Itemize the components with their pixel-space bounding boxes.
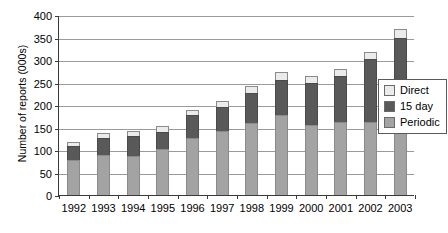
bar-segment-periodic (127, 156, 140, 195)
bar-segment-periodic (186, 138, 199, 195)
x-tick-label: 1997 (210, 202, 234, 214)
legend-label: 15 day (400, 101, 433, 112)
bar-segment-direct (305, 76, 318, 83)
bar-segment-15-day (156, 132, 169, 150)
bar-stack (305, 76, 318, 195)
bar-segment-15-day (127, 136, 140, 156)
x-tick-mark (385, 195, 386, 199)
bar-segment-15-day (97, 138, 110, 154)
bar-segment-15-day (216, 107, 229, 131)
x-tick-mark (237, 195, 238, 199)
x-tick-label: 1995 (151, 202, 175, 214)
bar-segment-periodic (334, 122, 347, 195)
bar-stack (186, 110, 199, 195)
x-tick-label: 2000 (299, 202, 323, 214)
y-tick-label: 50 (18, 168, 52, 180)
bar-segment-15-day (186, 115, 199, 138)
bar-segment-periodic (305, 125, 318, 195)
x-tick-label: 1993 (91, 202, 115, 214)
x-tick-mark (267, 195, 268, 199)
y-tick-label: 300 (18, 55, 52, 67)
x-tick-mark (356, 195, 357, 199)
x-tick-mark (89, 195, 90, 199)
x-tick-mark (59, 195, 60, 199)
bar-segment-15-day (364, 59, 377, 122)
legend-swatch-icon (384, 117, 395, 128)
x-tick-mark (296, 195, 297, 199)
bar-stack (67, 142, 80, 195)
bar-segment-direct (245, 86, 258, 93)
plot-area: 400350300250200150100500 199219931994199… (58, 16, 414, 196)
y-tick-label: 100 (18, 145, 52, 157)
x-tick-mark (207, 195, 208, 199)
x-tick-label: 2002 (358, 202, 382, 214)
bar-stack (156, 126, 169, 195)
bar-segment-periodic (156, 149, 169, 195)
x-tick-mark (178, 195, 179, 199)
legend-item[interactable]: Direct (384, 85, 440, 96)
bar-stack (364, 52, 377, 195)
bar-stack (334, 69, 347, 195)
bar-segment-15-day (334, 76, 347, 122)
legend-item[interactable]: Periodic (384, 117, 440, 128)
x-tick-mark (118, 195, 119, 199)
bar-stack (275, 72, 288, 195)
y-tick-label: 400 (18, 10, 52, 22)
y-tick-label: 200 (18, 100, 52, 112)
x-tick-label: 1996 (180, 202, 204, 214)
bar-segment-direct (394, 29, 407, 38)
x-tick-label: 1998 (240, 202, 264, 214)
bar-stack (245, 86, 258, 195)
x-tick-mark (326, 195, 327, 199)
x-tick-mark (148, 195, 149, 199)
y-tick-label: 250 (18, 78, 52, 90)
legend-swatch-icon (384, 85, 395, 96)
bar-segment-periodic (245, 123, 258, 195)
x-tick-mark (415, 195, 416, 199)
bar-segment-direct (364, 52, 377, 59)
bar-segment-periodic (97, 155, 110, 196)
stacked-bar-chart: Number of reports (000s) 400350300250200… (0, 0, 448, 233)
x-tick-label: 2003 (388, 202, 412, 214)
bar-segment-periodic (364, 122, 377, 195)
bar-segment-15-day (245, 93, 258, 123)
x-tick-label: 1999 (269, 202, 293, 214)
y-tick-label: 0 (18, 190, 52, 202)
y-tick-label: 350 (18, 33, 52, 45)
legend-label: Periodic (400, 117, 440, 128)
legend-item[interactable]: 15 day (384, 101, 440, 112)
bar-segment-periodic (67, 160, 80, 195)
bar-stack (216, 101, 229, 195)
x-tick-label: 2001 (329, 202, 353, 214)
bar-segment-direct (275, 72, 288, 80)
bar-stack (97, 133, 110, 195)
bar-segment-periodic (216, 131, 229, 195)
chart-legend: Direct15 dayPeriodic (378, 79, 447, 134)
legend-swatch-icon (384, 101, 395, 112)
legend-label: Direct (400, 85, 429, 96)
x-tick-label: 1992 (62, 202, 86, 214)
bar-segment-15-day (305, 83, 318, 125)
bar-segment-direct (334, 69, 347, 76)
bar-segment-15-day (275, 80, 288, 115)
bar-segment-15-day (67, 146, 80, 160)
y-tick-label: 150 (18, 123, 52, 135)
bar-segment-periodic (275, 115, 288, 195)
bar-stack (127, 131, 140, 195)
bars-layer (59, 16, 414, 195)
x-tick-label: 1994 (121, 202, 145, 214)
